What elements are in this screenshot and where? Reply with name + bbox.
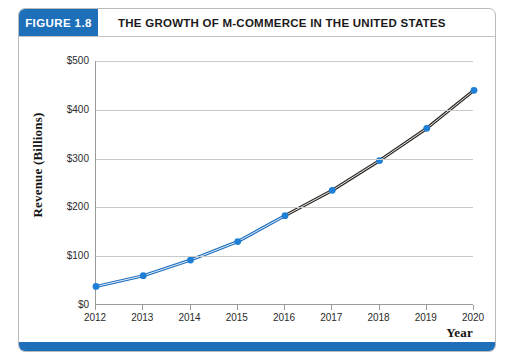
gridline [96,61,473,62]
footer-accent-bar [19,342,495,351]
data-point-marker [187,257,194,264]
chart-line-svg [96,61,474,305]
y-tick-label: $300 [45,154,89,164]
chart-line-actual [96,216,285,287]
x-tick-mark [95,305,96,310]
y-axis-tick-labels: $0$100$200$300$400$500 [45,37,89,317]
chart-body: Revenue (Billions) $0$100$200$300$400$50… [19,37,495,352]
y-tick-label: $200 [45,202,89,212]
x-tick-label: 2016 [261,312,307,323]
data-point-marker [423,125,430,132]
x-tick-label: 2020 [450,312,496,323]
y-tick-label: $400 [45,105,89,115]
x-tick-label: 2019 [403,312,449,323]
x-tick-label: 2014 [167,312,213,323]
figure-title: THE GROWTH OF M-COMMERCE IN THE UNITED S… [98,9,495,36]
gridline [96,256,473,257]
gridline [96,207,473,208]
data-point-marker [140,272,147,279]
x-tick-mark [190,305,191,310]
x-tick-mark [426,305,427,310]
data-point-marker [329,187,336,194]
figure-header: FIGURE 1.8 THE GROWTH OF M-COMMERCE IN T… [19,9,495,37]
x-axis-tick-labels: 201220132014201520162017201820192020 [95,305,473,331]
x-tick-mark [237,305,238,310]
x-tick-label: 2017 [308,312,354,323]
y-tick-label: $0 [45,300,89,310]
data-point-marker [282,212,289,219]
x-tick-mark [142,305,143,310]
figure-number-badge: FIGURE 1.8 [19,9,98,36]
x-tick-label: 2012 [72,312,118,323]
x-tick-label: 2013 [119,312,165,323]
x-axis-title: Year [446,325,473,341]
plot-area [95,61,473,305]
x-tick-mark [331,305,332,310]
y-tick-label: $100 [45,251,89,261]
x-tick-label: 2018 [356,312,402,323]
data-point-marker [93,283,100,290]
y-axis-title: Revenue (Billions) [30,75,46,255]
x-tick-mark [379,305,380,310]
gridline [96,110,473,111]
gridline [96,159,473,160]
y-tick-label: $500 [45,56,89,66]
chart-line-highlight [96,216,285,287]
x-tick-mark [473,305,474,310]
data-point-marker [471,87,478,94]
x-tick-label: 2015 [214,312,260,323]
data-point-marker [234,238,241,245]
figure-card: FIGURE 1.8 THE GROWTH OF M-COMMERCE IN T… [18,8,496,352]
x-tick-mark [284,305,285,310]
